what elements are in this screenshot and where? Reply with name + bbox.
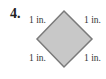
side-label-bottom-left: 1 in.: [29, 53, 46, 63]
diamond-shape: [0, 0, 106, 79]
side-label-top-right: 1 in.: [84, 15, 101, 25]
side-label-bottom-right: 1 in.: [84, 53, 101, 63]
side-label-top-left: 1 in.: [29, 15, 46, 25]
